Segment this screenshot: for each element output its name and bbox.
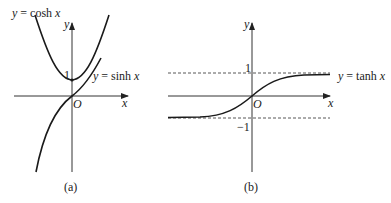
origin-label: O — [73, 97, 82, 111]
origin-label: O — [253, 97, 262, 111]
x-axis-label: x — [121, 96, 128, 110]
panel-a: y = cosh x y = sinh x y x O 1 (a) — [11, 6, 140, 194]
tick-1-label: 1 — [245, 61, 251, 75]
sinh-label: y = sinh x — [92, 69, 140, 83]
tanh-label: y = tanh x — [337, 69, 386, 83]
panel-b: y = tanh x y x O 1 −1 (b) — [168, 17, 386, 194]
hyperbolic-functions-figure: y = cosh x y = sinh x y x O 1 (a) y = ta… — [0, 0, 391, 203]
caption-b: (b) — [244, 180, 258, 194]
x-axis-label: x — [327, 96, 334, 110]
tick-neg1-label: −1 — [237, 120, 250, 134]
y-axis-label: y — [63, 17, 70, 31]
y-axis-label: y — [243, 17, 250, 31]
tick-1-label: 1 — [64, 68, 70, 82]
caption-a: (a) — [64, 180, 77, 194]
cosh-point — [70, 78, 73, 81]
cosh-label: y = cosh x — [11, 6, 61, 20]
